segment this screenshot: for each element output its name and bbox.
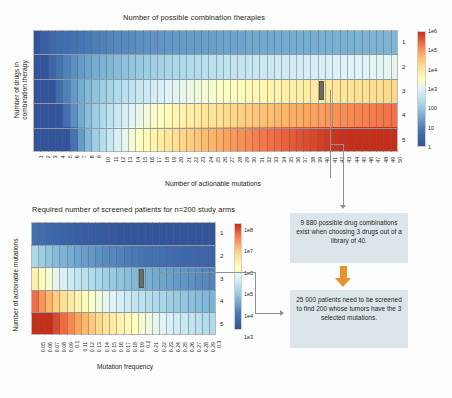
heatmap-cell bbox=[34, 127, 41, 151]
heatmap-cell bbox=[390, 55, 397, 79]
heatmap-cell bbox=[339, 79, 346, 103]
heatmap-cell bbox=[266, 103, 273, 127]
heatmap-cell bbox=[166, 312, 173, 334]
heatmap-cell bbox=[216, 127, 223, 151]
heatmap-cell bbox=[131, 290, 138, 312]
top-x-tick-label: 30 bbox=[251, 157, 257, 163]
heatmap-cell bbox=[390, 127, 397, 151]
heatmap-cell bbox=[78, 31, 85, 55]
heatmap-cell bbox=[116, 312, 123, 334]
heatmap-cell bbox=[88, 223, 95, 245]
heatmap-cell bbox=[194, 55, 201, 79]
bottom-y-tick-label: 2 bbox=[220, 252, 223, 259]
top-x-tick-label: 46 bbox=[368, 157, 374, 163]
heatmap-cell bbox=[201, 290, 208, 312]
heatmap-cell bbox=[136, 103, 143, 127]
heatmap-cell bbox=[223, 55, 230, 79]
heatmap-cell bbox=[208, 223, 215, 245]
heatmap-cell bbox=[281, 55, 288, 79]
heatmap-cell bbox=[49, 103, 56, 127]
heatmap-cell bbox=[49, 127, 56, 151]
heatmap-cell bbox=[179, 55, 186, 79]
heatmap-cell bbox=[252, 103, 259, 127]
heatmap-cell bbox=[32, 290, 39, 312]
heatmap-cell bbox=[346, 103, 353, 127]
heatmap-cell bbox=[187, 290, 194, 312]
heatmap-cell bbox=[173, 290, 180, 312]
heatmap-cell bbox=[128, 31, 135, 55]
heatmap-cell bbox=[166, 223, 173, 245]
heatmap-cell bbox=[95, 245, 102, 267]
bottom-chart-x-ticks: 0.050.060.070.080.090.10.110.120.130.140… bbox=[31, 337, 216, 359]
heatmap-cell bbox=[107, 127, 114, 151]
heatmap-cell bbox=[46, 267, 53, 289]
bottom-colorbar bbox=[234, 223, 242, 330]
top-x-tick-label: 49 bbox=[390, 157, 396, 163]
heatmap-cell bbox=[70, 55, 77, 79]
top-chart-y-ticks: 12345 bbox=[400, 30, 414, 152]
top-x-tick-label: 12 bbox=[120, 157, 126, 163]
heatmap-cell bbox=[63, 79, 70, 103]
heatmap-cell bbox=[102, 267, 109, 289]
heatmap-cell bbox=[303, 79, 310, 103]
heatmap-cell bbox=[223, 127, 230, 151]
heatmap-cell bbox=[102, 312, 109, 334]
heatmap-cell bbox=[173, 312, 180, 334]
heatmap-cell bbox=[201, 55, 208, 79]
heatmap-cell bbox=[346, 127, 353, 151]
heatmap-cell bbox=[109, 312, 116, 334]
heatmap-cell bbox=[310, 55, 317, 79]
heatmap-cell bbox=[121, 103, 128, 127]
heatmap-cell bbox=[194, 79, 201, 103]
bottom-x-tick-label: 0.25 bbox=[182, 342, 188, 352]
heatmap-cell bbox=[201, 103, 208, 127]
top-x-tick-label: 13 bbox=[127, 157, 133, 163]
heatmap-cell bbox=[186, 127, 193, 151]
heatmap-cell bbox=[173, 267, 180, 289]
top-x-tick-label: 29 bbox=[244, 157, 250, 163]
top-x-tick-label: 5 bbox=[67, 155, 73, 158]
bottom-x-tick-label: 0.1 bbox=[74, 341, 80, 348]
heatmap-cell bbox=[317, 55, 324, 79]
connector-to-callout1 bbox=[343, 178, 344, 206]
heatmap-cell bbox=[332, 31, 339, 55]
heatmap-cell bbox=[172, 103, 179, 127]
heatmap-cell bbox=[99, 31, 106, 55]
heatmap-cell bbox=[60, 290, 67, 312]
orange-arrow-icon bbox=[335, 266, 351, 288]
figure-canvas: Number of possible combination therapies… bbox=[0, 0, 452, 398]
heatmap-cell bbox=[95, 267, 102, 289]
heatmap-cell bbox=[124, 267, 131, 289]
heatmap-cell bbox=[152, 312, 159, 334]
heatmap-cell bbox=[382, 79, 389, 103]
heatmap-cell bbox=[266, 127, 273, 151]
top-x-tick-label: 7 bbox=[82, 155, 88, 158]
heatmap-cell bbox=[121, 31, 128, 55]
heatmap-cell bbox=[78, 103, 85, 127]
top-heatmap bbox=[33, 30, 398, 152]
heatmap-cell bbox=[194, 31, 201, 55]
bottom-x-tick-label: 0.3 bbox=[216, 341, 222, 348]
top-x-tick-label: 21 bbox=[186, 157, 192, 163]
top-colorbar-gradient bbox=[417, 31, 426, 147]
top-x-tick-label: 47 bbox=[375, 157, 381, 163]
top-x-tick-label: 11 bbox=[112, 157, 118, 162]
top-chart-title: Number of possible combination therapies bbox=[123, 13, 265, 22]
heatmap-cell bbox=[34, 103, 41, 127]
heatmap-cell bbox=[157, 31, 164, 55]
top-colorbar-tick-label: 1e3 bbox=[428, 86, 437, 92]
heatmap-cell bbox=[95, 290, 102, 312]
heatmap-cell bbox=[317, 31, 324, 55]
heatmap-cell bbox=[46, 312, 53, 334]
bottom-x-tick-label: 0.13 bbox=[97, 342, 103, 352]
heatmap-cell bbox=[353, 55, 360, 79]
heatmap-cell bbox=[208, 79, 215, 103]
heatmap-cell bbox=[81, 290, 88, 312]
heatmap-cell bbox=[138, 290, 145, 312]
heatmap-cell bbox=[375, 103, 382, 127]
heatmap-cell bbox=[78, 55, 85, 79]
heatmap-cell bbox=[99, 103, 106, 127]
bottom-y-tick-label: 5 bbox=[220, 320, 223, 327]
connector-bottom-to-callout2 bbox=[255, 313, 281, 314]
heatmap-cell bbox=[109, 223, 116, 245]
